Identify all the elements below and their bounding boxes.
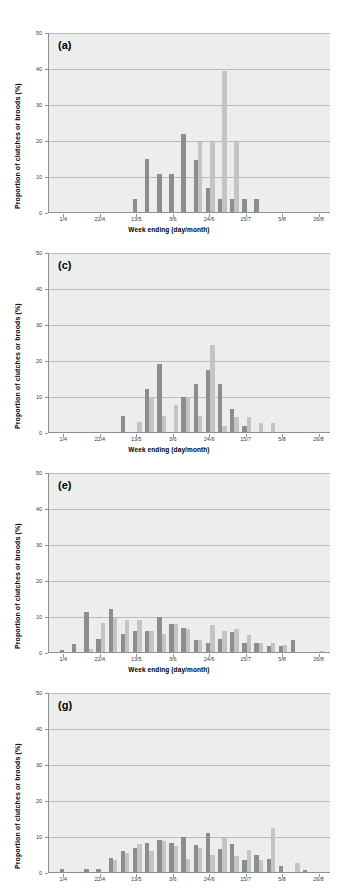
x-tick-mark — [63, 874, 64, 877]
x-tick-label: 1/4 — [53, 656, 73, 663]
bar — [145, 159, 149, 212]
x-tick-label: 1/4 — [53, 436, 73, 443]
x-tick-mark — [173, 654, 174, 657]
bar — [169, 174, 173, 212]
gridline — [49, 177, 330, 178]
y-tick-mark — [45, 765, 48, 766]
y-axis-title: Proportion of clutches or broods (%) — [14, 303, 21, 429]
bar — [218, 384, 222, 432]
bar — [295, 863, 299, 872]
bar — [210, 345, 214, 432]
x-tick-mark — [319, 654, 320, 657]
y-tick-label: 20 — [28, 578, 42, 584]
bar — [84, 869, 88, 872]
gridline — [49, 545, 330, 546]
gridline — [49, 289, 330, 290]
bar — [137, 422, 141, 432]
bar — [60, 650, 64, 652]
bar — [162, 416, 166, 432]
x-tick-label: 13/5 — [126, 436, 146, 443]
x-tick-label: 24/6 — [199, 876, 219, 883]
x-tick-mark — [319, 874, 320, 877]
y-tick-label: 30 — [28, 542, 42, 548]
bar — [60, 869, 64, 872]
x-tick-mark — [136, 434, 137, 437]
bar — [283, 645, 287, 652]
bar — [247, 850, 251, 872]
bar — [149, 851, 153, 872]
bar — [210, 855, 214, 872]
x-tick-label: 26/8 — [309, 436, 329, 443]
x-tick-label: 1/4 — [53, 216, 73, 223]
x-tick-label: 5/8 — [272, 876, 292, 883]
x-tick-label: 26/8 — [309, 656, 329, 663]
x-tick-label: 15/7 — [236, 656, 256, 663]
panel-label: (g) — [58, 699, 72, 711]
panel-label: (e) — [58, 479, 71, 491]
bar — [101, 623, 105, 652]
x-tick-label: 3/6 — [163, 656, 183, 663]
y-tick-label: 40 — [28, 726, 42, 732]
x-tick-label: 15/7 — [236, 876, 256, 883]
bar — [234, 417, 238, 432]
bar — [174, 846, 178, 872]
gridline — [49, 617, 330, 618]
panel-label: (c) — [58, 259, 71, 271]
bar — [181, 134, 185, 212]
y-tick-mark — [45, 253, 48, 254]
y-tick-mark — [45, 473, 48, 474]
plot-area — [48, 253, 330, 433]
gridline — [49, 253, 330, 254]
y-tick-mark — [45, 177, 48, 178]
x-tick-label: 3/6 — [163, 216, 183, 223]
bar — [271, 423, 275, 432]
bar — [210, 625, 214, 652]
bar — [259, 860, 263, 872]
gridline — [49, 729, 330, 730]
x-tick-mark — [209, 654, 210, 657]
bar — [271, 643, 275, 652]
x-tick-label: 15/7 — [236, 216, 256, 223]
plot-area — [48, 693, 330, 873]
y-tick-label: 0 — [28, 650, 42, 656]
x-tick-mark — [100, 874, 101, 877]
y-tick-label: 50 — [28, 30, 42, 36]
x-tick-mark — [136, 654, 137, 657]
y-tick-mark — [45, 213, 48, 214]
x-tick-mark — [282, 434, 283, 437]
x-tick-mark — [319, 434, 320, 437]
gridline — [49, 69, 330, 70]
plot-area — [48, 473, 330, 653]
x-tick-label: 3/6 — [163, 876, 183, 883]
x-tick-label: 3/6 — [163, 436, 183, 443]
bar — [291, 640, 295, 652]
y-tick-mark — [45, 837, 48, 838]
y-tick-mark — [45, 141, 48, 142]
bar — [149, 631, 153, 652]
x-tick-mark — [282, 874, 283, 877]
bar — [222, 631, 226, 652]
y-axis-title: Proportion of clutches or broods (%) — [14, 523, 21, 649]
bar — [72, 644, 76, 652]
bar — [198, 416, 202, 432]
y-tick-mark — [45, 653, 48, 654]
gridline — [49, 361, 330, 362]
x-tick-mark — [100, 214, 101, 217]
gridline — [49, 693, 330, 694]
x-tick-label: 22/4 — [90, 436, 110, 443]
y-tick-mark — [45, 729, 48, 730]
gridline — [49, 837, 330, 838]
bar — [125, 620, 129, 652]
x-tick-label: 22/4 — [90, 656, 110, 663]
bar — [247, 417, 251, 432]
y-tick-label: 20 — [28, 798, 42, 804]
y-tick-mark — [45, 509, 48, 510]
x-tick-label: 24/6 — [199, 216, 219, 223]
x-tick-mark — [282, 654, 283, 657]
y-tick-mark — [45, 581, 48, 582]
bar — [125, 853, 129, 872]
bar — [259, 643, 263, 652]
y-tick-label: 10 — [28, 174, 42, 180]
bar — [96, 869, 100, 872]
y-tick-label: 50 — [28, 470, 42, 476]
